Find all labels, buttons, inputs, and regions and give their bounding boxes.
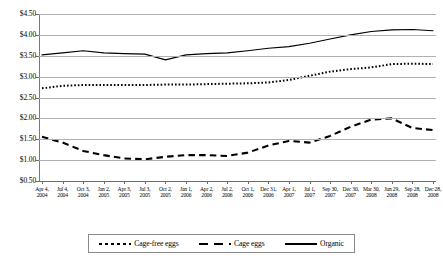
legend-label: Cage eggs <box>234 239 265 248</box>
x-tick-mark <box>186 181 187 184</box>
x-tick-label: Apr 4,2004 <box>35 186 48 199</box>
gridline <box>39 139 436 140</box>
y-tick-label: $3.50 <box>3 52 36 60</box>
gridline <box>39 118 436 119</box>
x-tick-mark <box>63 181 64 184</box>
x-tick-label: Jul 3,2005 <box>139 186 150 199</box>
y-axis: $4.50$4.00$3.50$3.00$2.50$2.00$1.50$1.00… <box>0 0 36 200</box>
plot-area <box>39 14 436 181</box>
x-tick-mark <box>289 181 290 184</box>
x-tick-mark <box>268 181 269 184</box>
y-tick-label: $2.50 <box>3 94 36 102</box>
legend-item-organic[interactable]: Organic <box>285 239 344 248</box>
x-tick-mark <box>104 181 105 184</box>
x-tick-label: Jan 2,2005 <box>98 186 110 199</box>
x-tick-label: Mar 30,2008 <box>363 186 380 199</box>
x-tick-mark <box>248 181 249 184</box>
x-tick-label: Jun 29,2008 <box>384 186 399 199</box>
chart-legend: Cage-free eggsCage eggsOrganic <box>88 234 355 253</box>
x-tick-label: Dec 31,2006 <box>260 186 276 199</box>
x-tick-label: Jul 2,2006 <box>222 186 233 199</box>
y-tick-label: $2.00 <box>3 114 36 122</box>
x-tick-mark <box>83 181 84 184</box>
y-tick-label: $4.00 <box>3 31 36 39</box>
x-tick-label: Oct 3,2004 <box>77 186 90 199</box>
x-tick-mark <box>412 181 413 184</box>
legend-label: Organic <box>320 239 344 248</box>
x-tick-mark <box>310 181 311 184</box>
x-axis: Apr 4,2004Jul 4,2004Oct 3,2004Jan 2,2005… <box>39 181 436 211</box>
legend-swatch-dashed-icon <box>199 242 231 246</box>
gridline <box>39 56 436 57</box>
x-tick-label: Oct 2,2005 <box>159 186 172 199</box>
x-tick-mark <box>145 181 146 184</box>
x-tick-label: Jul 4,2004 <box>57 186 68 199</box>
x-tick-label: Dec 30,2007 <box>342 186 358 199</box>
legend-swatch-dotted-icon <box>99 242 131 246</box>
x-tick-mark <box>433 181 434 184</box>
egg-price-line-chart: $4.50$4.00$3.50$3.00$2.50$2.00$1.50$1.00… <box>0 0 443 261</box>
x-tick-label: Sep 30,2007 <box>322 186 338 199</box>
x-tick-label: Apr 2,2006 <box>200 186 213 199</box>
legend-label: Cage-free eggs <box>134 239 178 248</box>
x-tick-label: Apr 3,2005 <box>118 186 131 199</box>
y-tick-label: $0.50 <box>3 177 36 185</box>
gridline <box>39 160 436 161</box>
x-tick-mark <box>330 181 331 184</box>
y-tick-label: $1.50 <box>3 135 36 143</box>
x-tick-label: Jul 1,2007 <box>304 186 315 199</box>
x-tick-label: Sep 28,2008 <box>405 186 421 199</box>
y-tick-label: $3.00 <box>3 73 36 81</box>
x-tick-mark <box>42 181 43 184</box>
y-tick-label: $4.50 <box>3 10 36 18</box>
x-tick-label: Jan 1,2006 <box>180 186 192 199</box>
x-tick-label: Oct 1,2006 <box>241 186 254 199</box>
x-tick-mark <box>124 181 125 184</box>
gridline <box>39 98 436 99</box>
x-tick-mark <box>207 181 208 184</box>
gridline <box>39 77 436 78</box>
x-tick-mark <box>371 181 372 184</box>
legend-swatch-solid-icon <box>285 243 317 244</box>
x-tick-mark <box>165 181 166 184</box>
x-tick-mark <box>392 181 393 184</box>
gridline <box>39 14 436 15</box>
x-tick-mark <box>227 181 228 184</box>
legend-item-cage-eggs[interactable]: Cage eggs <box>199 239 265 248</box>
legend-item-cage-free-eggs[interactable]: Cage-free eggs <box>99 239 178 248</box>
x-tick-mark <box>351 181 352 184</box>
gridline <box>39 35 436 36</box>
x-tick-label: Dec 28,2008 <box>425 186 441 199</box>
x-tick-label: Apr 1,2007 <box>282 186 295 199</box>
y-tick-label: $1.00 <box>3 156 36 164</box>
